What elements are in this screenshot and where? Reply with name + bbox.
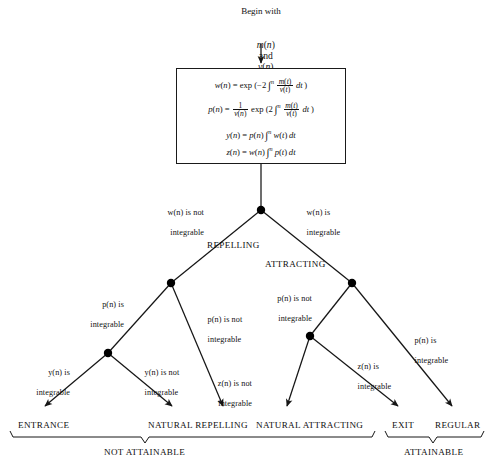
node-w-decision: [257, 206, 265, 214]
branch-label-z-integrable: z(n) is integrable: [349, 352, 429, 402]
terminal-regular: REGULAR: [435, 420, 480, 430]
terminal-exit: EXIT: [392, 420, 414, 430]
terminal-natural-repelling: NATURAL REPELLING: [148, 420, 248, 430]
branch-label-z-not-integrable: z(n) is not integrable: [172, 369, 252, 419]
branch-label-line1: w(n) is not: [167, 208, 204, 217]
branch-label-y-integrable: y(n) is integrable: [0, 358, 70, 408]
branch-label-w-integrable: w(n) is integrable: [298, 198, 376, 248]
brace-not-attainable: [10, 431, 375, 443]
edge-z-node-to-natural-attracting: [287, 336, 310, 406]
grouping-not-attainable: NOT ATTAINABLE: [104, 447, 185, 457]
branch-label-p-not-integrable-right: p(n) is not integrable: [232, 284, 312, 334]
node-p-decision-repelling: [167, 279, 175, 287]
branch-label-p-integrable-left: p(n) is integrable: [48, 290, 124, 340]
branch-label-line2: integrable: [170, 228, 204, 237]
flowchart-page: Begin with m(n) and v(n) w(n) = exp (−2 …: [0, 0, 494, 470]
branch-label-w-not-integrable: w(n) is not integrable: [128, 198, 204, 248]
node-p-decision-attracting: [348, 279, 356, 287]
category-label-repelling: REPELLING: [207, 240, 260, 250]
category-label-attracting: ATTRACTING: [265, 259, 326, 269]
edge-attracting-to-z-node: [310, 283, 352, 336]
grouping-braces: [10, 431, 484, 443]
terminal-natural-attracting: NATURAL ATTRACTING: [256, 420, 363, 430]
brace-attainable: [385, 431, 484, 443]
grouping-attainable: ATTAINABLE: [404, 447, 463, 457]
branch-label-line2: integrable: [307, 228, 341, 237]
terminal-entrance: ENTRANCE: [18, 420, 69, 430]
branch-label-line1: w(n) is: [307, 208, 331, 217]
node-y-decision: [104, 349, 112, 357]
